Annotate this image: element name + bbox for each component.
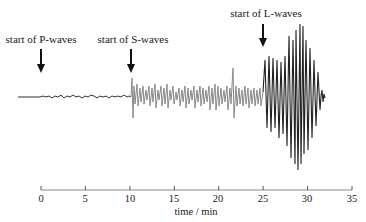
tick-label-25: 25 bbox=[258, 194, 269, 205]
seismogram-graphic bbox=[0, 0, 366, 222]
tick-label-5: 5 bbox=[82, 194, 87, 205]
tick-label-10: 10 bbox=[125, 194, 136, 205]
tick-label-0: 0 bbox=[38, 194, 43, 205]
s-wave-trace bbox=[131, 68, 263, 118]
p-wave-trace bbox=[18, 95, 131, 98]
arrow-p-icon bbox=[37, 49, 45, 73]
l-wave-trace bbox=[263, 24, 325, 170]
arrow-l-icon bbox=[259, 24, 267, 47]
tick-label-15: 15 bbox=[169, 194, 180, 205]
time-axis bbox=[41, 186, 352, 190]
arrow-s-icon bbox=[127, 49, 135, 73]
axis-title: time / min bbox=[174, 207, 217, 218]
tick-label-30: 30 bbox=[302, 194, 313, 205]
seismogram-figure: start of P-waves start of S-waves start … bbox=[0, 0, 366, 222]
tick-label-35: 35 bbox=[347, 194, 358, 205]
tick-label-20: 20 bbox=[213, 194, 224, 205]
